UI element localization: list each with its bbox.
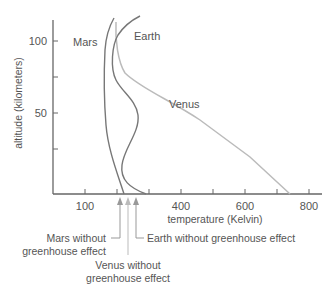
earth-label: Earth: [134, 30, 160, 42]
x-tick-label-600: 600: [236, 200, 254, 212]
venus-curve: [116, 22, 290, 194]
mars-arrow-line: [111, 205, 120, 238]
earth-curve: [112, 16, 146, 194]
mars-arrow-head: [117, 197, 123, 205]
mars-annotation-line2: greenhouse effect: [22, 245, 106, 257]
annotation-arrows: [111, 197, 144, 255]
x-tick-label-400: 400: [172, 200, 190, 212]
x-tick-label-800: 800: [300, 200, 318, 212]
earth-arrow-head: [133, 197, 139, 205]
x-axis-title: temperature (Kelvin): [167, 213, 262, 225]
mars-label: Mars: [73, 36, 98, 48]
atmosphere-temperature-chart: 100 50 100 400 600 800 temperature (Kelv…: [0, 0, 336, 290]
venus-annotation-line2: greenhouse effect: [86, 272, 170, 284]
venus-annotation-line1: Venus without: [95, 259, 160, 271]
earth-annotation: Earth without greenhouse effect: [147, 232, 295, 244]
venus-arrow-head: [125, 197, 131, 205]
y-tick-label-100: 100: [29, 35, 47, 47]
axes: 100 50 100 400 600 800 temperature (Kelv…: [12, 20, 322, 225]
earth-arrow-line: [136, 205, 144, 238]
mars-annotation-line1: Mars without: [46, 232, 106, 244]
venus-label: Venus: [169, 98, 200, 110]
x-tick-label-100: 100: [76, 200, 94, 212]
y-tick-label-50: 50: [35, 107, 47, 119]
y-axis-title: altitude (kilometers): [12, 57, 24, 149]
